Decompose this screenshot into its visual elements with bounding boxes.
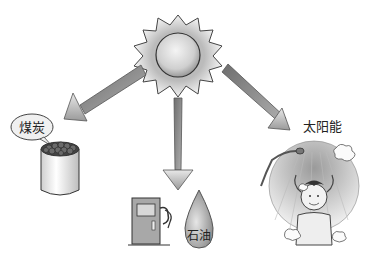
coal-bucket-icon — [41, 142, 79, 195]
diagram-canvas: 煤炭 石油 太阳能 — [0, 0, 370, 259]
fuel-pump-icon — [128, 198, 171, 245]
sun-icon — [134, 15, 222, 97]
arrow-to-coal-icon — [64, 65, 146, 121]
oil-label: 石油 — [187, 230, 211, 242]
coal-label: 煤炭 — [19, 121, 45, 134]
arrow-to-solar-icon — [222, 64, 290, 130]
solar-label: 太阳能 — [303, 120, 342, 133]
solar-shower-icon — [261, 141, 359, 245]
arrow-to-oil-icon — [163, 98, 193, 190]
